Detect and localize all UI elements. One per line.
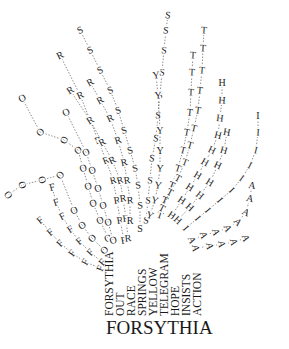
svg-text:I: I (181, 223, 192, 233)
svg-text:T: T (188, 86, 195, 97)
svg-text:I: I (215, 195, 226, 205)
svg-text:H: H (184, 180, 196, 193)
svg-text:H: H (204, 175, 216, 188)
svg-text:A: A (190, 244, 202, 253)
svg-text:I: I (253, 144, 259, 155)
svg-text:T: T (194, 104, 202, 116)
svg-text:T: T (186, 106, 193, 118)
svg-text:I: I (237, 173, 246, 184)
svg-text:F: F (34, 214, 46, 226)
svg-text:Y: Y (156, 162, 164, 173)
svg-text:S: S (165, 9, 172, 21)
svg-text:S: S (126, 144, 134, 156)
svg-text:Y: Y (154, 89, 162, 100)
svg-text:H: H (184, 200, 197, 213)
stem-word: ACTION (192, 273, 203, 316)
svg-text:I: I (203, 205, 214, 215)
svg-text:F: F (44, 226, 56, 238)
svg-text:H: H (218, 77, 225, 88)
svg-text:F: F (52, 196, 61, 208)
svg-text:O: O (80, 146, 91, 159)
letter-strand: FFFFFFFFFFFF (34, 214, 106, 273)
svg-text:O: O (78, 162, 88, 175)
svg-text:H: H (192, 168, 204, 181)
svg-text:R: R (84, 75, 95, 88)
svg-text:O: O (76, 218, 88, 231)
svg-text:O: O (57, 134, 70, 145)
svg-text:R: R (84, 113, 96, 126)
svg-text:I: I (256, 126, 260, 137)
svg-text:R: R (123, 174, 132, 186)
svg-text:A: A (240, 233, 253, 244)
svg-text:Y: Y (145, 209, 155, 222)
svg-text:H: H (194, 188, 207, 201)
svg-text:F: F (79, 257, 92, 267)
svg-text:Y: Y (154, 179, 163, 191)
svg-text:S: S (75, 24, 85, 36)
svg-text:O: O (83, 180, 93, 193)
svg-text:H: H (223, 126, 232, 138)
svg-text:H: H (212, 159, 223, 172)
svg-text:S: S (120, 124, 128, 136)
svg-text:T: T (186, 139, 195, 151)
svg-text:A: A (248, 179, 258, 191)
svg-text:I: I (227, 185, 237, 195)
svg-text:S: S (163, 24, 170, 36)
svg-text:H: H (216, 112, 224, 124)
svg-text:A: A (210, 227, 223, 238)
svg-text:R: R (55, 48, 66, 61)
svg-text:A: A (245, 192, 255, 204)
svg-text:Y: Y (150, 194, 160, 206)
svg-text:A: A (216, 240, 228, 250)
svg-text:A: A (198, 230, 211, 241)
svg-text:I: I (256, 110, 259, 121)
svg-text:O: O (93, 182, 103, 195)
svg-text:R: R (113, 134, 123, 147)
svg-text:S: S (114, 104, 123, 116)
svg-text:S: S (135, 179, 142, 191)
svg-text:O: O (103, 216, 113, 229)
svg-text:A: A (204, 242, 216, 252)
svg-text:R: R (127, 215, 134, 226)
svg-text:T: T (201, 24, 208, 35)
svg-text:Y: Y (156, 124, 164, 135)
svg-text:R: R (120, 156, 129, 168)
svg-text:O: O (36, 175, 48, 185)
svg-text:O: O (54, 169, 67, 182)
svg-text:Y: Y (156, 145, 163, 156)
poem-title: FORSYTHIA (106, 318, 213, 337)
svg-text:T: T (196, 84, 203, 96)
svg-text:H: H (219, 144, 229, 157)
svg-text:F: F (48, 181, 57, 193)
svg-text:H: H (213, 129, 223, 141)
svg-text:T: T (180, 156, 190, 168)
svg-text:S: S (105, 84, 115, 96)
svg-text:S: S (147, 174, 154, 185)
svg-text:R: R (94, 93, 105, 106)
svg-text:I: I (193, 213, 204, 223)
svg-text:T: T (199, 64, 206, 75)
svg-text:O: O (16, 179, 29, 190)
svg-text:S: S (148, 152, 155, 164)
svg-text:O: O (108, 234, 118, 247)
svg-text:H: H (206, 143, 217, 156)
svg-text:R: R (96, 135, 107, 148)
svg-text:O: O (98, 199, 108, 212)
svg-text:T: T (189, 66, 196, 77)
svg-text:O: O (60, 105, 71, 118)
svg-text:A: A (228, 237, 241, 247)
svg-text:H: H (199, 155, 211, 168)
svg-text:O: O (34, 126, 47, 139)
svg-text:T: T (200, 42, 207, 53)
svg-text:I: I (246, 159, 254, 170)
svg-text:H: H (218, 94, 226, 105)
svg-text:O: O (1, 189, 14, 201)
svg-text:S: S (137, 199, 143, 210)
svg-text:O: O (68, 204, 79, 217)
svg-text:S: S (155, 109, 162, 120)
svg-text:F: F (66, 247, 78, 258)
svg-text:R: R (126, 194, 134, 205)
svg-text:O: O (87, 164, 97, 177)
svg-text:Y: Y (152, 69, 160, 81)
svg-text:S: S (131, 162, 139, 174)
